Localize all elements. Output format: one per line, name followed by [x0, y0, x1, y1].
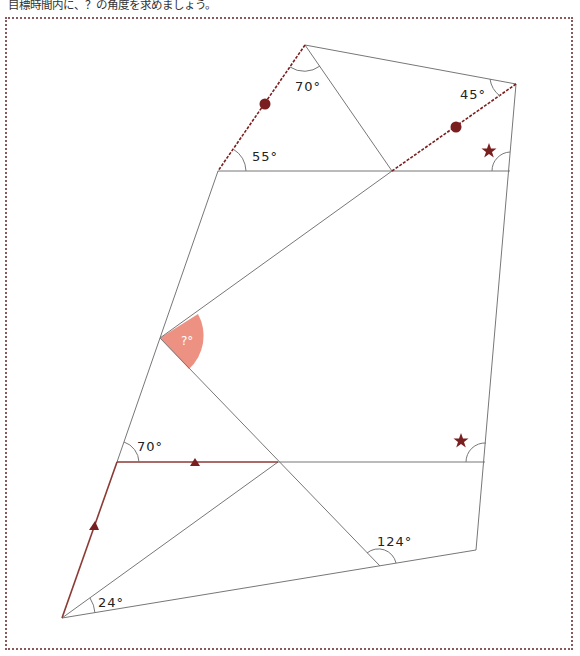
angle-label-upper-right: 45°: [460, 87, 486, 102]
equal-segment-circle-marker: [260, 99, 271, 110]
angle-label-lower-left: 70°: [137, 439, 163, 454]
angle-label-unknown: ?°: [181, 334, 193, 348]
parallel-triangle-marker: [89, 521, 99, 530]
star-icon: [482, 143, 497, 158]
angle-label-bottom-left: 24°: [98, 595, 124, 610]
angle-label-upper-left: 55°: [252, 149, 278, 164]
angle-label-top-apex: 70°: [295, 79, 321, 94]
angle-arcs: [90, 66, 510, 613]
star-icon: [454, 433, 469, 448]
geometry-figure: 70° 55° 45° ?° 70° 124° 24°: [0, 0, 580, 656]
equal-segment-circle-marker: [451, 122, 462, 133]
angle-label-lower-right-mid: 124°: [377, 534, 412, 549]
